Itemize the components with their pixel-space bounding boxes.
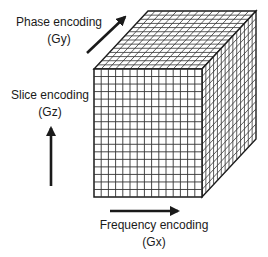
phase-encoding-label: Phase encoding (Gy) bbox=[14, 15, 104, 47]
slice-encoding-axis: (Gz) bbox=[8, 105, 92, 120]
phase-encoding-title: Phase encoding bbox=[14, 15, 104, 30]
phase-encoding-axis: (Gy) bbox=[14, 32, 104, 47]
cube-front-face bbox=[94, 69, 202, 197]
frequency-encoding-label: Frequency encoding (Gx) bbox=[92, 218, 216, 250]
slice-encoding-label: Slice encoding (Gz) bbox=[8, 88, 92, 120]
frequency-encoding-axis: (Gx) bbox=[92, 235, 216, 250]
frequency-encoding-title: Frequency encoding bbox=[92, 218, 216, 233]
slice-encoding-title: Slice encoding bbox=[8, 88, 92, 103]
